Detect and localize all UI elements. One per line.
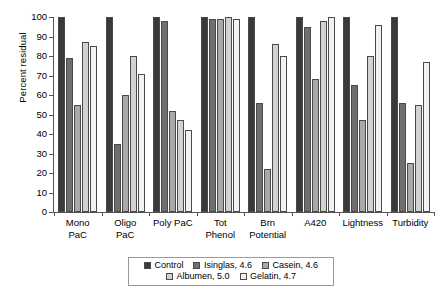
x-tick-label: Mono PaC xyxy=(54,216,102,254)
legend-row-1: ControlIsinglas, 4.6Casein, 4.6 xyxy=(134,261,328,270)
x-axis-labels: Mono PaCOligo PaCPoly PaCTot PhenolBrn P… xyxy=(54,216,434,254)
bar xyxy=(280,56,287,212)
legend-label: Gelatin, 4.7 xyxy=(250,272,296,281)
bar xyxy=(359,120,366,212)
bar xyxy=(312,79,319,212)
y-tick-label: 90 xyxy=(3,32,47,42)
bar xyxy=(399,103,406,212)
x-tick-label: Lightness xyxy=(339,216,387,254)
bar-chart: Percent residual 1009080706050403020100 … xyxy=(0,0,442,307)
bar-group xyxy=(244,17,292,212)
y-tick-label: 40 xyxy=(3,129,47,139)
bar xyxy=(82,42,89,212)
bar xyxy=(153,17,160,212)
x-tick-mark xyxy=(434,212,435,216)
bar-group xyxy=(339,17,387,212)
bar-group xyxy=(387,17,435,212)
legend-item[interactable]: Control xyxy=(144,261,184,270)
bar xyxy=(177,120,184,212)
bar-group xyxy=(292,17,340,212)
bar xyxy=(415,105,422,212)
bar xyxy=(304,27,311,212)
bar xyxy=(423,62,430,212)
bar-groups xyxy=(54,17,434,212)
plot-area: 1009080706050403020100 xyxy=(53,17,434,212)
bar xyxy=(201,17,208,212)
bar-group xyxy=(149,17,197,212)
legend-item[interactable]: Casein, 4.6 xyxy=(262,261,318,270)
legend-swatch-icon xyxy=(166,273,173,280)
bar xyxy=(217,19,224,212)
bar xyxy=(58,17,65,212)
legend-item[interactable]: Gelatin, 4.7 xyxy=(240,272,297,281)
bar xyxy=(256,103,263,212)
y-tick-mark xyxy=(49,56,53,57)
legend-swatch-icon xyxy=(262,262,269,269)
bar xyxy=(375,25,382,212)
bar xyxy=(90,46,97,212)
bar xyxy=(391,17,398,212)
bar xyxy=(233,19,240,212)
legend-swatch-icon xyxy=(144,262,151,269)
y-tick-mark xyxy=(49,212,53,213)
y-tick-mark xyxy=(49,37,53,38)
legend-swatch-icon xyxy=(240,273,247,280)
bar xyxy=(272,44,279,212)
bar xyxy=(343,17,350,212)
bar xyxy=(296,17,303,212)
bar xyxy=(106,17,113,212)
y-tick-mark xyxy=(49,154,53,155)
bar xyxy=(114,144,121,212)
bar xyxy=(74,105,81,212)
bar xyxy=(66,58,73,212)
y-tick-mark xyxy=(49,134,53,135)
legend: ControlIsinglas, 4.6Casein, 4.6 Albumen,… xyxy=(128,257,334,286)
y-tick-label: 10 xyxy=(3,188,47,198)
legend-row-2: Albumen, 5.0Gelatin, 4.7 xyxy=(134,272,328,281)
y-tick-mark xyxy=(49,173,53,174)
bar xyxy=(320,21,327,212)
x-tick-label: Oligo PaC xyxy=(102,216,150,254)
bar xyxy=(161,21,168,212)
bar xyxy=(328,17,335,212)
bar xyxy=(169,111,176,212)
y-tick-label: 30 xyxy=(3,149,47,159)
y-tick-label: 20 xyxy=(3,168,47,178)
legend-item[interactable]: Albumen, 5.0 xyxy=(166,272,230,281)
bar xyxy=(351,85,358,212)
y-tick-label: 60 xyxy=(3,90,47,100)
legend-item[interactable]: Isinglas, 4.6 xyxy=(193,261,252,270)
bar xyxy=(225,17,232,212)
bar xyxy=(130,56,137,212)
x-tick-label: Tot Phenol xyxy=(197,216,245,254)
legend-label: Control xyxy=(154,261,183,270)
y-tick-label: 100 xyxy=(3,12,47,22)
bar xyxy=(407,163,414,212)
y-tick-mark xyxy=(49,17,53,18)
y-tick-label: 80 xyxy=(3,51,47,61)
bar xyxy=(138,74,145,212)
legend-label: Casein, 4.6 xyxy=(273,261,319,270)
bar xyxy=(185,130,192,212)
bar-group xyxy=(54,17,102,212)
bar xyxy=(209,19,216,212)
y-tick-label: 0 xyxy=(3,207,47,217)
x-tick-label: Poly PaC xyxy=(149,216,197,254)
bar-group xyxy=(197,17,245,212)
legend-label: Albumen, 5.0 xyxy=(176,272,229,281)
y-tick-label: 70 xyxy=(3,71,47,81)
x-tick-label: Turbidity xyxy=(387,216,435,254)
y-tick-label: 50 xyxy=(3,110,47,120)
bar xyxy=(264,169,271,212)
y-tick-mark xyxy=(49,115,53,116)
bar xyxy=(248,17,255,212)
legend-label: Isinglas, 4.6 xyxy=(204,261,252,270)
y-tick-mark xyxy=(49,95,53,96)
y-tick-mark xyxy=(49,76,53,77)
x-tick-label: A420 xyxy=(292,216,340,254)
bar xyxy=(122,95,129,212)
y-tick-mark xyxy=(49,193,53,194)
x-tick-label: Brn Potential xyxy=(244,216,292,254)
bar-group xyxy=(102,17,150,212)
bar xyxy=(367,56,374,212)
